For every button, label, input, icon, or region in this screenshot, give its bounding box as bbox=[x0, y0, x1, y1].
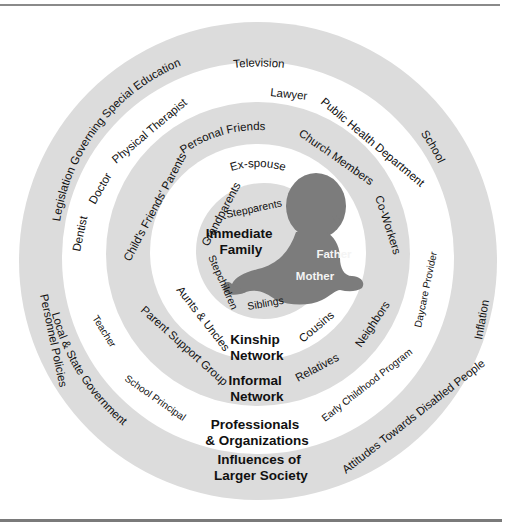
title-professionals: Professionals & Organizations bbox=[205, 417, 309, 448]
title-larger-society: Influences of Larger Society bbox=[214, 452, 308, 483]
title-kinship-network: Kinship Network bbox=[230, 332, 284, 363]
title-informal-network: Informal Network bbox=[228, 373, 285, 404]
label-television: Television bbox=[233, 57, 285, 70]
label-mother: Mother bbox=[296, 270, 335, 282]
label-father: Father bbox=[316, 248, 352, 260]
ecological-systems-diagram: Television Legislation Governing Special… bbox=[0, 0, 517, 522]
